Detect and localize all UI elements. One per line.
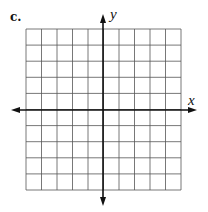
coordinate-grid <box>0 0 208 212</box>
x-axis-left-arrow-icon <box>11 107 20 113</box>
y-axis-up-arrow-icon <box>100 14 106 23</box>
x-axis-right-arrow-icon <box>188 107 197 113</box>
y-axis-down-arrow-icon <box>100 197 106 206</box>
x-axis <box>11 107 197 113</box>
